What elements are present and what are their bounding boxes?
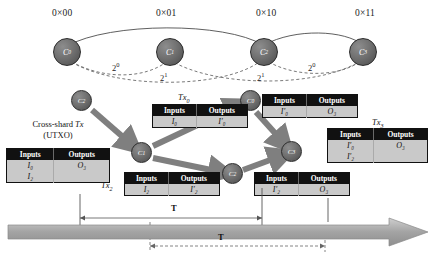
table-row: I′₀ O₃ <box>263 106 358 118</box>
shard-node-c3-sub: 3 <box>364 49 367 55</box>
tx0-sub: 0 <box>187 98 190 104</box>
table-header-row: Inputs Outputs <box>328 129 428 141</box>
shard-node-c1-sub: 1 <box>171 49 174 55</box>
cell-input: I₂ <box>7 171 54 183</box>
tx2-table: Inputs Outputs I₂ I′₂ <box>124 172 220 196</box>
table-row: I₂ I′₂ <box>125 184 220 196</box>
caption-tx-italic: Tx <box>75 119 84 129</box>
table-header-row: Inputs Outputs <box>7 149 110 161</box>
cell-output: I′₂ <box>168 184 219 196</box>
edge-label-exp: 0 <box>116 61 119 68</box>
table-row: I′₀ O₃ <box>328 140 428 151</box>
column-header-inputs: Inputs <box>125 173 169 185</box>
column-header-outputs: Outputs <box>306 95 357 107</box>
cell-input: I′₀ <box>328 140 374 151</box>
cell-input: I′₀ <box>263 106 307 118</box>
cell-input: I′₂ <box>328 151 374 163</box>
shard-node-c2[interactable]: C2 <box>250 38 278 66</box>
flow-node-c1-sub: 1 <box>142 150 145 156</box>
table-row: I₀ I′₀ <box>153 116 248 128</box>
period-label-t-first: T <box>171 203 177 213</box>
edge-label-2-pow-0-left: 20 <box>112 61 120 73</box>
edge-label-2-pow-0-right: 20 <box>308 61 316 73</box>
tx0-table: Inputs Outputs I₀ I′₀ <box>152 104 248 128</box>
cross-shard-tx-table: Inputs Outputs I₀ O₃ I₂ <box>6 148 110 183</box>
cell-input: I₂ <box>125 184 169 196</box>
column-header-outputs: Outputs <box>168 173 219 185</box>
cell-output <box>54 171 110 183</box>
caption-prefix: Cross-shard <box>32 119 75 129</box>
flow-node-c2-sub: 2 <box>233 171 236 177</box>
table-row: I′₂ <box>328 151 428 163</box>
cell-input: I₀ <box>7 160 54 171</box>
table-row: I′₂ O₃ <box>255 184 350 196</box>
cell-input: I′₂ <box>255 184 299 196</box>
shard-label-0x11: 0×11 <box>355 8 375 18</box>
column-header-outputs: Outputs <box>54 149 110 161</box>
edge-label-2-pow-1-right: 21 <box>257 71 265 83</box>
shard-node-c0-sub: 0 <box>68 49 71 55</box>
cross-shard-tx-caption: Cross-shard Tx (UTXO) <box>6 119 110 141</box>
figure-canvas: 0×00 0×01 0×10 0×11 C0 C1 C2 C3 20 21 21… <box>0 0 435 268</box>
tx3-base: Tx <box>372 117 381 127</box>
column-header-inputs: Inputs <box>328 129 374 141</box>
flow-node-c3[interactable]: C3 <box>281 141 302 162</box>
cell-output: O₃ <box>54 160 110 171</box>
edge-label-2-pow-1-left: 21 <box>160 71 168 83</box>
shard-label-0x10: 0×10 <box>256 8 276 18</box>
cell-input: I₀ <box>153 116 197 128</box>
cell-output <box>374 151 428 163</box>
column-header-outputs: Outputs <box>298 173 349 185</box>
tx0-label: Tx0 <box>178 92 190 104</box>
table-header-row: Inputs Outputs <box>263 95 358 107</box>
edge-label-exp: 1 <box>261 71 264 78</box>
table-row: I₂ <box>7 171 110 183</box>
period-label-t-second: T <box>218 232 224 242</box>
table-header-row: Inputs Outputs <box>153 105 248 117</box>
c3-table: Inputs Outputs I′₂ O₃ <box>254 172 350 196</box>
cell-output: O₃ <box>306 106 357 118</box>
table-row: I₀ O₃ <box>7 160 110 171</box>
shard-node-c1[interactable]: C1 <box>156 38 184 66</box>
caption-line-2: (UTXO) <box>43 130 72 140</box>
shard-node-c2-sub: 2 <box>265 49 268 55</box>
flow-node-c2[interactable]: C2 <box>222 163 243 184</box>
column-header-inputs: Inputs <box>263 95 307 107</box>
caption-line-1: Cross-shard Tx <box>32 119 83 129</box>
shard-label-0x01: 0×01 <box>156 8 176 18</box>
shard-node-c0[interactable]: C0 <box>53 38 81 66</box>
column-header-outputs: Outputs <box>374 129 428 141</box>
tx0-base: Tx <box>178 92 187 102</box>
cell-output: O₃ <box>298 184 349 196</box>
table-header-row: Inputs Outputs <box>125 173 220 185</box>
cell-output: I′₀ <box>196 116 247 128</box>
cell-output: O₃ <box>374 140 428 151</box>
column-header-inputs: Inputs <box>255 173 299 185</box>
column-header-outputs: Outputs <box>196 105 247 117</box>
column-header-inputs: Inputs <box>7 149 54 161</box>
shard-label-0x00: 0×00 <box>52 8 72 18</box>
tx2-sub: 2 <box>110 186 113 192</box>
shard-node-c3[interactable]: C3 <box>349 38 377 66</box>
tx3-table: Inputs Outputs I′₀ O₃ I′₂ <box>327 128 428 163</box>
flow-node-c3-sub: 3 <box>292 149 295 155</box>
flow-node-c0-sub: 0 <box>251 98 254 104</box>
edge-label-exp: 0 <box>312 61 315 68</box>
flow-node-c2-origin-sub: 2 <box>82 98 85 104</box>
c0-table: Inputs Outputs I′₀ O₃ <box>262 94 358 118</box>
tx3-label: Tx3 <box>372 117 384 129</box>
table-header-row: Inputs Outputs <box>255 173 350 185</box>
flow-node-c2-origin[interactable]: C2 <box>71 90 92 111</box>
flow-node-c1[interactable]: C1 <box>131 142 152 163</box>
column-header-inputs: Inputs <box>153 105 197 117</box>
edge-label-exp: 1 <box>164 71 167 78</box>
